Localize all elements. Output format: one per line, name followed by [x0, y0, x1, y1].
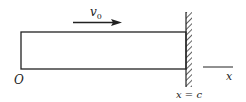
wall — [186, 12, 192, 87]
wall-position-label: x = c — [176, 90, 202, 100]
velocity-label: v0 — [90, 6, 102, 21]
axis-label: x — [226, 71, 232, 82]
rod-rectangle — [21, 32, 186, 69]
velocity-symbol: v — [90, 5, 97, 19]
velocity-subscript: 0 — [97, 12, 102, 21]
origin-label: O — [14, 74, 24, 86]
diagram-canvas — [0, 0, 246, 102]
